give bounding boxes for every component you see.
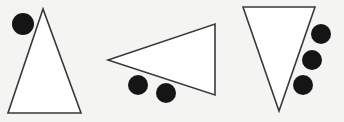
- dot-2-1: [128, 75, 148, 95]
- panel-2: [108, 24, 215, 103]
- dot-3-1: [311, 24, 331, 44]
- dot-2-2: [156, 83, 176, 103]
- panel-1: [8, 9, 81, 113]
- dot-1-1: [12, 13, 34, 35]
- dot-3-2: [302, 50, 322, 70]
- triangle-dots-figure: [0, 0, 344, 122]
- dot-3-3: [293, 75, 313, 95]
- panel-3: [243, 7, 331, 111]
